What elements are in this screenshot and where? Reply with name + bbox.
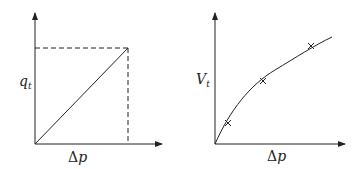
left-y-label: qt [19,73,32,91]
left-linear-line [35,48,128,144]
diagram-canvas: qt Δp Vt Δp [0,0,363,169]
cross-marker-2 [260,78,266,84]
left-x-label: Δp [68,149,87,165]
right-chart: Vt Δp [196,13,345,164]
right-curve [215,37,332,144]
left-chart: qt Δp [19,13,162,165]
right-x-label: Δp [267,148,286,164]
right-y-label: Vt [196,71,210,89]
